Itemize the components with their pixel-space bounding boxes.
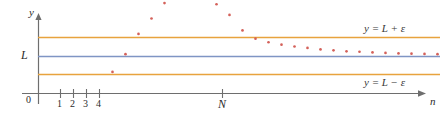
data-point <box>358 50 361 53</box>
data-point <box>215 3 218 6</box>
lower-band-equation-label: y = L − ε <box>364 76 405 88</box>
y-axis-label: y <box>29 6 34 18</box>
data-point <box>293 45 296 48</box>
data-point <box>267 41 270 44</box>
y-axis <box>35 13 41 104</box>
data-point <box>111 71 114 74</box>
limit-convergence-figure: y n 0 L 1 2 3 4 N y = L + ε y = L − ε <box>0 0 448 127</box>
data-point <box>384 52 387 55</box>
tick-label-2: 2 <box>70 98 75 109</box>
data-point <box>397 52 400 55</box>
data-point <box>423 53 426 56</box>
data-point <box>280 43 283 46</box>
tick-label-1: 1 <box>57 98 62 109</box>
data-point <box>371 51 374 54</box>
data-point <box>241 29 244 32</box>
data-point <box>410 52 413 55</box>
upper-band-equation-label: y = L + ε <box>364 22 405 34</box>
data-point <box>228 14 231 17</box>
tick-label-4: 4 <box>96 98 101 109</box>
data-point <box>150 17 153 20</box>
tick-label-3: 3 <box>83 98 88 109</box>
data-point <box>137 33 140 36</box>
data-point <box>163 2 166 5</box>
data-point <box>319 48 322 51</box>
threshold-label-N: N <box>218 97 226 112</box>
data-point <box>254 37 257 40</box>
limit-value-label: L <box>21 48 28 63</box>
data-point <box>436 53 439 56</box>
data-point <box>124 53 127 56</box>
origin-label: 0 <box>26 94 31 105</box>
data-point <box>306 47 309 50</box>
data-point <box>345 50 348 53</box>
x-axis-label: n <box>430 95 436 107</box>
x-axis <box>22 90 426 97</box>
data-point <box>332 49 335 52</box>
